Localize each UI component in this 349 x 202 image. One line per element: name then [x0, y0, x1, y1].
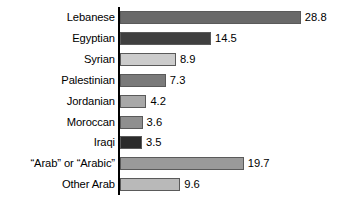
bar-chart: Lebanese28.8Egyptian14.5Syrian8.9Palesti… — [0, 0, 349, 202]
bar-row: Palestinian7.3 — [0, 70, 349, 91]
bar-row: Iraqi3.5 — [0, 132, 349, 153]
bar — [120, 32, 211, 45]
bar — [120, 53, 176, 66]
bar-row: Egyptian14.5 — [0, 28, 349, 49]
bar — [120, 116, 143, 129]
bar-value-label: 7.3 — [170, 70, 186, 91]
bar-row: Lebanese28.8 — [0, 7, 349, 28]
bar-row: Moroccan3.6 — [0, 112, 349, 133]
category-label: Other Arab — [0, 174, 115, 195]
bar-value-label: 4.2 — [150, 91, 166, 112]
bar-value-label: 8.9 — [180, 49, 196, 70]
bar — [120, 95, 146, 108]
category-label: Moroccan — [0, 112, 115, 133]
bar — [120, 178, 180, 191]
category-label: Iraqi — [0, 132, 115, 153]
bar — [120, 157, 244, 170]
bar — [120, 11, 301, 24]
category-label: Jordanian — [0, 91, 115, 112]
bar-row: Jordanian4.2 — [0, 91, 349, 112]
category-label: Lebanese — [0, 7, 115, 28]
bar-value-label: 9.6 — [184, 174, 200, 195]
bar-value-label: 19.7 — [248, 153, 270, 174]
bar-value-label: 28.8 — [305, 7, 327, 28]
bar-value-label: 14.5 — [215, 28, 237, 49]
category-label: “Arab” or “Arabic” — [0, 153, 115, 174]
bar-value-label: 3.5 — [146, 132, 162, 153]
plot-area: Lebanese28.8Egyptian14.5Syrian8.9Palesti… — [0, 0, 349, 202]
category-label: Palestinian — [0, 70, 115, 91]
bar — [120, 136, 142, 149]
bar-row: Other Arab9.6 — [0, 174, 349, 195]
bar-row: Syrian8.9 — [0, 49, 349, 70]
category-label: Syrian — [0, 49, 115, 70]
bar-value-label: 3.6 — [147, 112, 163, 133]
bar-row: “Arab” or “Arabic”19.7 — [0, 153, 349, 174]
bar — [120, 74, 166, 87]
category-label: Egyptian — [0, 28, 115, 49]
